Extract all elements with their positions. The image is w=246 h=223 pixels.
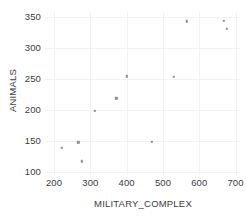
x-tick-label: 400 [119, 178, 135, 188]
plot-area [45, 12, 241, 175]
x-tick-label: 300 [82, 178, 98, 188]
data-point [151, 140, 153, 142]
data-point [173, 76, 175, 78]
gridline-vertical [163, 12, 164, 175]
data-point [94, 109, 96, 111]
gridline-vertical [199, 12, 200, 175]
x-tick-label: 600 [191, 178, 207, 188]
x-tick-label: 200 [46, 178, 62, 188]
x-axis-tick-labels: 200300400500600700 [45, 178, 241, 192]
gridline-vertical [127, 12, 128, 175]
y-tick-label: 250 [25, 74, 41, 84]
y-axis-title: ANIMALS [7, 51, 18, 131]
data-point [80, 160, 82, 162]
scatter-plot-figure: 100150200250300350 200300400500600700 MI… [0, 0, 246, 223]
x-axis-title: MILITARY_COMPLEX [45, 198, 241, 209]
gridline-horizontal [45, 110, 241, 111]
gridline-vertical [236, 12, 237, 175]
data-point [226, 28, 228, 30]
y-tick-label: 300 [25, 43, 41, 53]
gridline-horizontal [45, 79, 241, 80]
gridline-vertical [54, 12, 55, 175]
x-tick-label: 700 [227, 178, 243, 188]
y-tick-label: 350 [25, 12, 41, 22]
y-tick-label: 200 [25, 105, 41, 115]
gridline-horizontal [45, 17, 241, 18]
gridline-horizontal [45, 172, 241, 173]
data-point [185, 20, 187, 22]
data-point [77, 141, 79, 143]
y-tick-label: 150 [25, 136, 41, 146]
data-point [223, 19, 225, 21]
y-tick-label: 100 [25, 167, 41, 177]
data-point [61, 147, 63, 149]
gridline-horizontal [45, 48, 241, 49]
gridline-horizontal [45, 141, 241, 142]
gridline-vertical [90, 12, 91, 175]
data-point [115, 97, 117, 99]
x-tick-label: 500 [155, 178, 171, 188]
data-point [126, 75, 128, 77]
